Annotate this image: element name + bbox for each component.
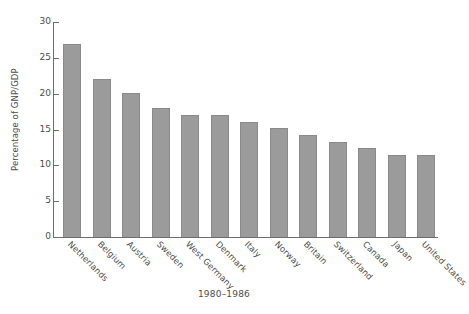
x-category-label: Austria bbox=[125, 239, 154, 268]
bar bbox=[93, 79, 111, 237]
bar bbox=[358, 148, 376, 237]
y-axis-title: Percentage of GNP/GDP bbox=[4, 0, 26, 240]
bar bbox=[152, 108, 170, 237]
y-tick-label: 20 bbox=[40, 88, 51, 99]
bar bbox=[211, 115, 229, 237]
y-tick-label: 0 bbox=[45, 231, 51, 242]
y-tick-mark bbox=[54, 237, 59, 238]
x-category-label: Italy bbox=[243, 239, 263, 259]
x-category-label: Japan bbox=[391, 239, 415, 263]
x-category-label: Norway bbox=[273, 239, 303, 269]
y-tick: 0 bbox=[23, 237, 59, 238]
y-tick-label: 15 bbox=[40, 124, 51, 135]
x-category-label: Canada bbox=[361, 239, 391, 269]
y-tick-label: 5 bbox=[45, 195, 51, 206]
bar bbox=[388, 155, 406, 237]
bar bbox=[240, 122, 258, 237]
x-category-label: Britain bbox=[302, 239, 329, 266]
x-axis-caption: 1980–1986 bbox=[0, 289, 448, 299]
bar bbox=[417, 155, 435, 237]
bar bbox=[181, 115, 199, 237]
y-tick-label: 30 bbox=[40, 16, 51, 27]
bars-layer bbox=[54, 22, 438, 237]
bar bbox=[63, 44, 81, 238]
x-category-label: Sweden bbox=[155, 239, 186, 270]
bar bbox=[299, 135, 317, 237]
bar bbox=[270, 128, 288, 237]
x-category-label: United States bbox=[420, 239, 469, 288]
y-tick-label: 25 bbox=[40, 52, 51, 63]
x-axis-line bbox=[53, 237, 438, 238]
bar bbox=[329, 142, 347, 237]
y-tick-label: 10 bbox=[40, 159, 51, 170]
plot-area: 051015202530 bbox=[53, 22, 438, 237]
bar bbox=[122, 93, 140, 237]
